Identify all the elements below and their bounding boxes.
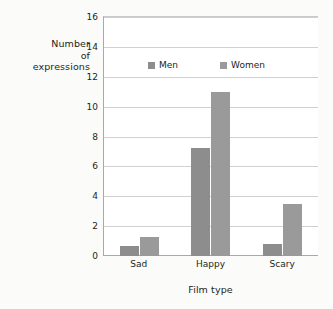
plot-inner: 0246810121416 <box>104 17 318 256</box>
y-axis-tick-label: 6 <box>92 161 98 171</box>
y-axis-title-line-1: Number <box>6 38 90 50</box>
legend-swatch-women-icon <box>220 62 227 69</box>
y-axis-title: Number of expressions <box>6 38 90 73</box>
y-axis-title-line-3: expressions <box>6 61 90 73</box>
legend-label-women: Women <box>231 60 265 70</box>
y-axis-tick-label: 4 <box>92 191 98 201</box>
legend-entry-women: Women <box>220 60 265 70</box>
chart-legend: Men Women <box>148 60 265 70</box>
y-axis-tick-label: 14 <box>87 42 98 52</box>
y-axis-tick-label: 10 <box>87 102 98 112</box>
bar-group-happy <box>175 17 246 256</box>
bar-chart: Number of expressions 0246810121416 Men … <box>0 0 333 309</box>
bar-groups <box>104 17 318 256</box>
legend-label-men: Men <box>159 60 178 70</box>
y-axis-tick-label: 8 <box>92 132 98 142</box>
x-axis-tick-label-scary: Scary <box>246 259 318 269</box>
bar-happy-men <box>191 148 210 256</box>
plot-area: 0246810121416 <box>103 16 318 256</box>
bar-group-scary <box>247 17 318 256</box>
bar-group-sad <box>104 17 175 256</box>
legend-entry-men: Men <box>148 60 178 70</box>
y-axis-tick-label: 12 <box>87 72 98 82</box>
y-axis-title-line-2: of <box>6 50 90 62</box>
bar-scary-women <box>283 204 302 256</box>
bar-sad-women <box>140 237 159 256</box>
x-axis-tick-label-happy: Happy <box>175 259 247 269</box>
y-axis-tick-label: 2 <box>92 221 98 231</box>
y-axis-tick-label: 16 <box>87 12 98 22</box>
x-axis-tick-labels: SadHappyScary <box>103 259 318 269</box>
y-axis-tick-label: 0 <box>92 251 98 261</box>
legend-swatch-men-icon <box>148 62 155 69</box>
bar-scary-men <box>263 244 282 256</box>
bar-happy-women <box>211 92 230 256</box>
bar-sad-men <box>120 246 139 256</box>
x-axis-tick-label-sad: Sad <box>103 259 175 269</box>
x-axis-title: Film type <box>103 284 318 295</box>
